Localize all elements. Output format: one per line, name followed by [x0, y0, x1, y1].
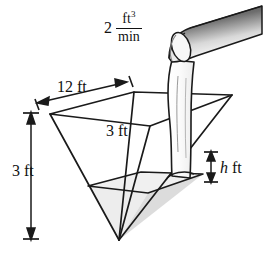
- funnel-diagram: 2 ft3 min 12 ft 3 ft 3 ft h ft: [0, 0, 263, 256]
- top-width-arrowhead-left: [37, 97, 49, 105]
- flow-rate-exponent: 3: [131, 9, 136, 19]
- top-depth-label: 3 ft: [106, 123, 128, 139]
- top-rim-outline: [50, 92, 232, 126]
- top-width-label: 12 ft: [57, 79, 87, 95]
- dimension-water-height: [204, 151, 218, 183]
- supply-pipe: [168, 6, 262, 64]
- flow-rate-fraction: ft3 min: [116, 12, 142, 45]
- flow-rate-coefficient: 2: [104, 20, 112, 36]
- top-width-tick-left: [35, 99, 39, 110]
- water-height-unit: ft: [232, 159, 242, 176]
- flow-rate-numerator-text: ft: [122, 11, 131, 26]
- water-stream: [166, 60, 194, 180]
- pyramid-height-label: 3 ft: [12, 163, 34, 179]
- flow-rate-numerator: ft3: [120, 12, 137, 28]
- flow-rate-denominator: min: [116, 29, 142, 45]
- water-height-symbol: h: [220, 159, 228, 176]
- stream-body: [168, 60, 194, 178]
- top-width-tick-right: [129, 76, 133, 87]
- flow-rate-label: 2 ft3 min: [104, 12, 142, 45]
- top-width-arrowhead-right: [115, 79, 127, 87]
- water-height-label: h ft: [220, 160, 242, 176]
